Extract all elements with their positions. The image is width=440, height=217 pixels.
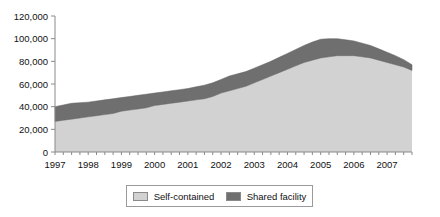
x-tick-label: 2000 bbox=[144, 159, 165, 170]
stacked-areas bbox=[55, 39, 412, 152]
x-tick-label: 1997 bbox=[44, 159, 65, 170]
y-tick-label: 40,000 bbox=[19, 101, 48, 112]
y-tick-label: 100,000 bbox=[14, 33, 48, 44]
legend-swatch-shared-facility bbox=[226, 192, 241, 201]
x-tick-label: 2007 bbox=[377, 159, 398, 170]
y-tick-label: 80,000 bbox=[19, 56, 48, 67]
legend-item-shared-facility: Shared facility bbox=[226, 191, 307, 202]
legend-label-self-contained: Self-contained bbox=[154, 191, 215, 202]
x-tick-label: 1999 bbox=[111, 159, 132, 170]
x-tick-label: 2004 bbox=[277, 159, 298, 170]
x-tick-label: 1998 bbox=[78, 159, 99, 170]
y-tick-label: 120,000 bbox=[14, 11, 48, 22]
x-tick-label: 2006 bbox=[343, 159, 364, 170]
x-axis-tick-labels: 1997199819992000200120022003200420052006… bbox=[44, 159, 397, 170]
legend-item-self-contained: Self-contained bbox=[133, 191, 215, 202]
y-tick-label: 20,000 bbox=[19, 124, 48, 135]
y-axis-tick-labels: 020,00040,00060,00080,000100,000120,000 bbox=[14, 11, 48, 158]
legend-swatch-self-contained bbox=[133, 192, 148, 201]
legend-label-shared-facility: Shared facility bbox=[247, 191, 307, 202]
chart-legend: Self-contained Shared facility bbox=[126, 185, 313, 207]
x-tick-label: 2001 bbox=[177, 159, 198, 170]
x-tick-label: 2003 bbox=[244, 159, 265, 170]
x-tick-label: 2005 bbox=[310, 159, 331, 170]
x-tick-label: 2002 bbox=[210, 159, 231, 170]
area-chart: 020,00040,00060,00080,000100,000120,000 … bbox=[0, 0, 440, 217]
y-tick-label: 60,000 bbox=[19, 79, 48, 90]
y-tick-label: 0 bbox=[43, 147, 48, 158]
